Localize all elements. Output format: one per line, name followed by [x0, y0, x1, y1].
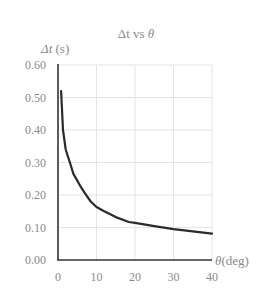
chart: Δt vs θ Δt (s) 0.000.100.200.300.400.500… [0, 0, 264, 301]
x-tick-label: 0 [55, 270, 61, 284]
y-tick-label: 0.40 [25, 123, 46, 137]
y-tick-labels: 0.000.100.200.300.400.500.60 [25, 58, 46, 267]
x-tick-label: 10 [91, 270, 103, 284]
y-tick-label: 0.20 [25, 188, 46, 202]
x-tick-label: 30 [168, 270, 180, 284]
x-tick-label: 40 [206, 270, 218, 284]
x-tick-label: 20 [129, 270, 141, 284]
y-tick-label: 0.30 [25, 156, 46, 170]
y-tick-label: 0.00 [25, 253, 46, 267]
x-tick-labels: 010203040 [55, 270, 218, 284]
x-axis-label: θ(deg) [215, 253, 249, 268]
y-tick-label: 0.60 [25, 58, 46, 72]
chart-title: Δt vs θ [118, 26, 155, 41]
y-tick-label: 0.10 [25, 221, 46, 235]
y-axis-label: Δt (s) [40, 41, 69, 56]
y-tick-label: 0.50 [25, 91, 46, 105]
